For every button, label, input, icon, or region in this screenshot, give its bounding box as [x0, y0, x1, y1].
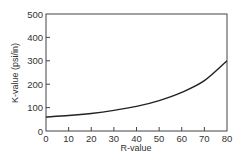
y-tick-label: 100: [27, 102, 43, 113]
plot-frame: [46, 14, 227, 131]
x-tick-label: 70: [199, 133, 210, 144]
x-axis-label: R-value: [120, 143, 151, 153]
x-tick-label: 60: [176, 133, 187, 144]
y-tick-label: 400: [27, 32, 43, 43]
x-tick-label: 10: [63, 133, 74, 144]
x-tick-label: 50: [154, 133, 165, 144]
x-tick-label: 20: [86, 133, 97, 144]
x-tick-label: 80: [222, 133, 233, 144]
plot-area: 010020030040050001020304050607080: [27, 9, 232, 145]
y-tick-label: 500: [27, 9, 43, 20]
y-tick-label: 200: [27, 79, 43, 90]
y-tick-label: 0: [38, 126, 43, 137]
data-curve: [46, 61, 227, 117]
x-tick-label: 30: [109, 133, 120, 144]
y-tick-label: 300: [27, 55, 43, 66]
x-tick-label: 0: [43, 133, 48, 144]
chart: 010020030040050001020304050607080 R-valu…: [0, 0, 243, 161]
y-axis-label: K-value (psi/in): [10, 43, 20, 103]
